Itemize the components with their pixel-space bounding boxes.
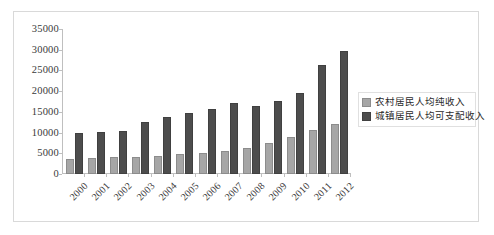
legend-swatch-rural-icon — [362, 98, 371, 107]
bar-group — [154, 29, 171, 174]
bar-urban-2009 — [274, 101, 282, 174]
bar-group — [199, 29, 216, 174]
bar-urban-2012 — [340, 51, 348, 174]
bar-rural-2009 — [265, 143, 273, 174]
bar-rural-2007 — [221, 151, 229, 174]
bar-urban-2004 — [163, 117, 171, 174]
y-axis-tick-label: 30000 — [15, 44, 59, 55]
bar-urban-2000 — [75, 133, 83, 174]
y-axis-tick-label: 35000 — [15, 24, 59, 35]
bar-urban-2011 — [318, 65, 326, 174]
bar-rural-2000 — [66, 159, 74, 174]
bar-rural-2004 — [154, 156, 162, 174]
bar-rural-2003 — [132, 157, 140, 174]
plot-area — [62, 29, 350, 174]
bar-group — [243, 29, 260, 174]
bar-urban-2010 — [296, 93, 304, 174]
y-axis-labels: 05000100001500020000250003000035000 — [14, 12, 59, 223]
bar-urban-2006 — [208, 109, 216, 174]
y-axis-tick-label: 15000 — [15, 107, 59, 118]
bar-group — [176, 29, 193, 174]
legend-label: 城镇居民人均可支配收入 — [375, 111, 485, 121]
bar-rural-2006 — [199, 153, 207, 174]
legend-item: 城镇居民人均可支配收入 — [362, 109, 473, 123]
chart-frame: 05000100001500020000250003000035000 2000… — [13, 11, 479, 222]
legend-label: 农村居民人均纯收入 — [375, 97, 465, 107]
bar-urban-2007 — [230, 103, 238, 174]
bar-rural-2012 — [331, 124, 339, 174]
bar-urban-2005 — [185, 113, 193, 174]
bar-group — [265, 29, 282, 174]
bar-rural-2005 — [176, 154, 184, 174]
chart-legend: 农村居民人均纯收入城镇居民人均可支配收入 — [358, 92, 476, 127]
bar-rural-2002 — [110, 157, 118, 174]
bar-group — [287, 29, 304, 174]
bar-urban-2002 — [119, 131, 127, 175]
legend-item: 农村居民人均纯收入 — [362, 95, 473, 109]
bar-urban-2003 — [141, 122, 149, 174]
bar-urban-2001 — [97, 132, 105, 174]
bar-group — [221, 29, 238, 174]
bar-group — [88, 29, 105, 174]
y-axis-tick-mark — [59, 174, 62, 175]
y-axis-tick-label: 0 — [15, 169, 59, 180]
bar-group — [132, 29, 149, 174]
y-axis-tick-label: 5000 — [15, 148, 59, 159]
bar-rural-2001 — [88, 158, 96, 174]
bar-group — [66, 29, 83, 174]
bar-rural-2011 — [309, 130, 317, 174]
bar-urban-2008 — [252, 106, 260, 174]
bar-rural-2008 — [243, 148, 251, 175]
bar-rural-2010 — [287, 137, 295, 174]
legend-swatch-urban-icon — [362, 112, 371, 121]
y-axis-tick-label: 20000 — [15, 86, 59, 97]
x-axis-labels: 2000200120022003200420052006200720082009… — [62, 176, 351, 221]
y-axis-tick-label: 25000 — [15, 65, 59, 76]
bar-group — [110, 29, 127, 174]
bar-group — [309, 29, 326, 174]
bar-group — [331, 29, 348, 174]
y-axis-tick-label: 10000 — [15, 127, 59, 138]
